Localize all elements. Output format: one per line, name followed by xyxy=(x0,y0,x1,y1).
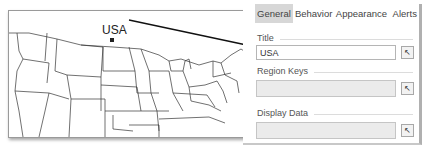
display-data-label: Display Data xyxy=(257,108,308,118)
tab-appearance[interactable]: Appearance xyxy=(334,4,388,23)
region-keys-picker-button[interactable]: ↖ xyxy=(401,82,414,95)
display-data-section-header: Display Data xyxy=(257,108,413,118)
tab-strip: General Behavior Appearance Alerts xyxy=(255,4,421,23)
cursor-pick-icon: ↖ xyxy=(404,84,411,93)
region-keys-input[interactable] xyxy=(256,80,396,97)
title-section-header: Title xyxy=(257,33,413,43)
title-input[interactable]: USA xyxy=(256,45,396,60)
region-keys-label: Region Keys xyxy=(257,66,308,76)
tab-alerts[interactable]: Alerts xyxy=(389,4,421,23)
title-label: Title xyxy=(257,33,274,43)
divider xyxy=(314,72,413,73)
display-data-picker-button[interactable]: ↖ xyxy=(401,124,414,137)
divider xyxy=(280,39,413,40)
cursor-pick-icon: ↖ xyxy=(404,126,411,135)
region-label: USA xyxy=(102,23,127,37)
properties-panel: General Behavior Appearance Alerts Title… xyxy=(243,4,422,145)
region-keys-section-header: Region Keys xyxy=(257,66,413,76)
tab-behavior[interactable]: Behavior xyxy=(293,4,335,23)
map-view[interactable]: USA xyxy=(8,10,245,138)
title-picker-button[interactable]: ↖ xyxy=(401,46,414,59)
cursor-pick-icon: ↖ xyxy=(404,48,411,57)
tab-general[interactable]: General xyxy=(255,4,293,23)
square-marker-icon[interactable] xyxy=(110,38,114,42)
display-data-input[interactable] xyxy=(256,122,396,139)
divider xyxy=(314,114,413,115)
